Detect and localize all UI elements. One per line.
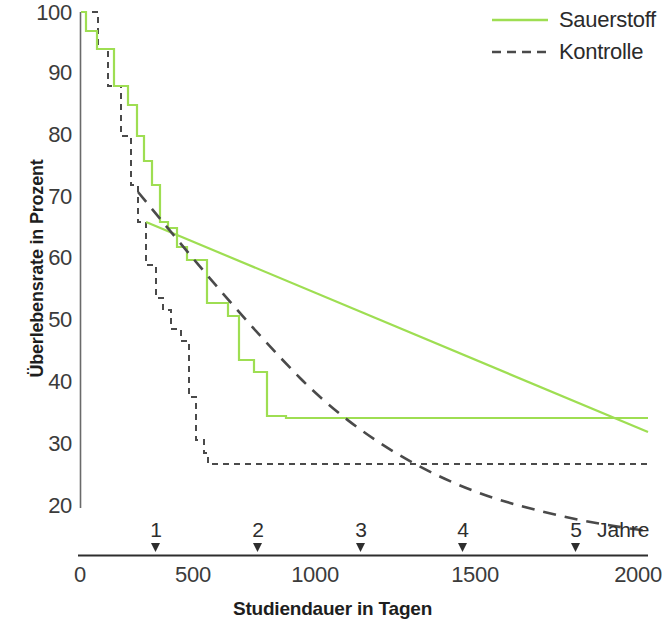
y-tick-label: 20: [14, 493, 72, 519]
x-tick-label: 1000: [275, 562, 355, 588]
series-kontrolle-smooth: [138, 192, 648, 531]
year-tick-label: 3: [341, 518, 381, 542]
y-tick-label: 100: [14, 0, 72, 26]
y-axis-title: Überlebensrate in Prozent: [27, 139, 48, 399]
x-tick-label: 2000: [598, 562, 665, 588]
series-sauerstoff-step: [81, 12, 648, 418]
x-tick-label: 1500: [435, 562, 515, 588]
x-axis-title: Studiendauer in Tagen: [0, 598, 665, 620]
x-tick-label: 500: [153, 562, 233, 588]
legend-item-kontrolle: Kontrolle: [490, 36, 665, 68]
y-tick-label: 30: [14, 431, 72, 457]
legend-line-solid-icon: [490, 13, 550, 27]
survival-curve-chart: 100 90 80 70 60 50 40 30 20 0 500 1000 1…: [0, 0, 665, 632]
chart-legend: Sauerstoff Kontrolle: [490, 4, 665, 68]
year-tick-label: 2: [238, 518, 278, 542]
x-tick-label: 0: [40, 562, 120, 588]
legend-item-sauerstoff: Sauerstoff: [490, 4, 665, 36]
y-tick-label: 90: [14, 60, 72, 86]
year-tick-label: 1: [136, 518, 176, 542]
year-unit-label: Jahre: [597, 518, 650, 542]
legend-line-dashed-icon: [490, 45, 550, 59]
year-tick-markers: [151, 543, 580, 552]
legend-label: Sauerstoff: [559, 7, 656, 33]
year-tick-label: 4: [443, 518, 483, 542]
series-sauerstoff-smooth: [146, 222, 648, 432]
legend-label: Kontrolle: [559, 39, 643, 65]
year-tick-label: 5: [556, 518, 596, 542]
